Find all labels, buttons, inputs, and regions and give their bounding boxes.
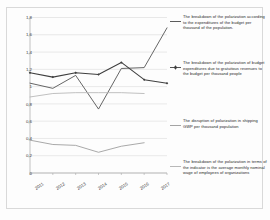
legend-label-series4: The breakdown of the polarization in ter… — [183, 159, 268, 176]
y-tick-1: 1 — [16, 84, 32, 89]
series-budget-expenditures-per-thousand — [30, 28, 167, 109]
series-gratuitous-revenues-per-thousand — [29, 61, 169, 84]
y-tick-0.6: 0,6 — [16, 119, 32, 124]
gridlines — [30, 18, 167, 174]
legend-entry-gratuitous-revenues[interactable]: The breakdown of the polarization of bud… — [170, 60, 268, 77]
legend-entry-nominal-wage[interactable]: The breakdown of the polarization in ter… — [170, 159, 268, 176]
line-chart-figure: 1,8 1,6 1,4 1,2 1 0,8 0,6 0,4 0,2 0 2011… — [0, 0, 270, 220]
y-tick-1.6: 1,6 — [16, 32, 32, 37]
legend-label-series3: The disruption of polarization in shippi… — [183, 118, 268, 129]
axis-spines — [30, 18, 167, 176]
legend-entry-budget-expenditures[interactable]: The breakdown of the polarization accord… — [170, 14, 268, 31]
legend-entry-shipping-gwp[interactable]: The disruption of polarization in shippi… — [170, 118, 268, 129]
y-tick-1.8: 1,8 — [16, 15, 32, 20]
chart-legend: The breakdown of the polarization accord… — [170, 14, 268, 210]
legend-line-icon-series3 — [170, 122, 181, 129]
legend-label-series2: The breakdown of the polarization of bud… — [183, 60, 268, 77]
series-shipping-gwp-per-thousand — [30, 93, 144, 97]
y-tick-1.4: 1,4 — [16, 50, 32, 55]
legend-line-diamond-icon-series2 — [170, 64, 181, 71]
y-tick-0: 0 — [16, 171, 32, 176]
y-tick-0.4: 0,4 — [16, 136, 32, 141]
series-average-monthly-nominal-wage — [30, 140, 144, 152]
legend-line-icon-series4 — [170, 163, 181, 170]
y-tick-1.2: 1,2 — [16, 67, 32, 72]
y-tick-0.2: 0,2 — [16, 153, 32, 158]
y-tick-0.8: 0,8 — [16, 102, 32, 107]
legend-line-icon-series1 — [170, 18, 181, 25]
legend-label-series1: The breakdown of the polarization accord… — [183, 14, 268, 31]
